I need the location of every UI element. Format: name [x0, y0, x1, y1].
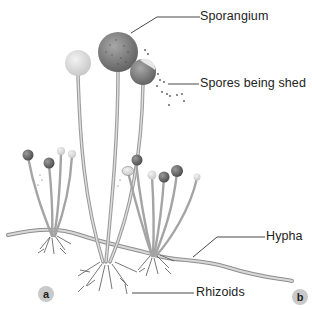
sporangium-leader: [131, 17, 200, 33]
panel-badge-b: b: [292, 289, 308, 305]
hypha-leader: [193, 237, 265, 257]
label-sporangium: Sporangium: [200, 9, 268, 23]
young-sporangium: [65, 50, 91, 76]
label-rhizoids: Rhizoids: [196, 285, 245, 299]
label-spores-being-shed: Spores being shed: [200, 76, 306, 90]
label-hypha: Hypha: [266, 229, 303, 243]
stalks-main: [78, 70, 143, 262]
mold-illustration: [0, 0, 312, 309]
panel-badge-a: a: [38, 286, 54, 302]
diagram: Sporangium Spores being shed Hypha Rhizo…: [0, 0, 312, 309]
